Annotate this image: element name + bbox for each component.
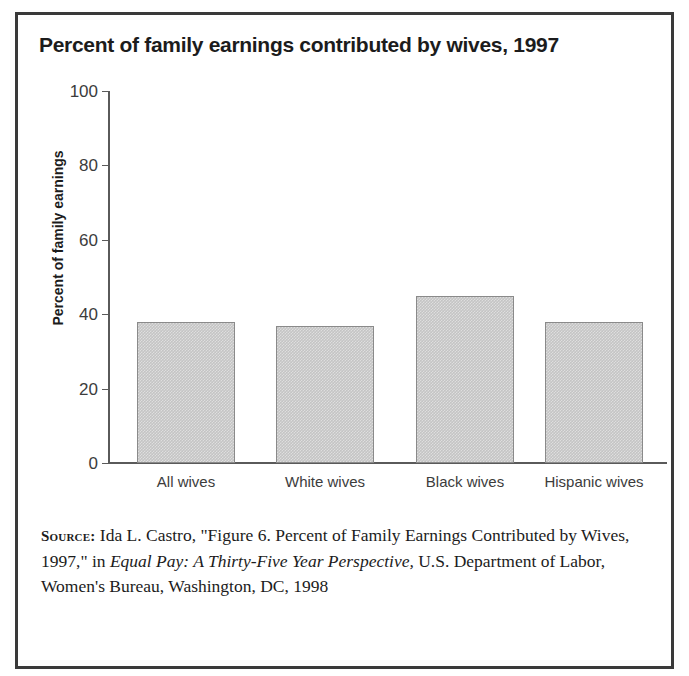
x-tick-label-all-wives: All wives — [126, 473, 246, 490]
y-tick-mark-20 — [102, 389, 108, 390]
bar-black-wives — [416, 296, 514, 463]
y-tick-label-20: 20 — [54, 381, 98, 398]
bar-white-wives — [276, 326, 374, 463]
x-tick-label-hispanic-wives: Hispanic wives — [529, 473, 659, 490]
y-tick-label-80: 80 — [54, 157, 98, 174]
x-tick-label-white-wives: White wives — [265, 473, 385, 490]
y-tick-label-100: 100 — [54, 83, 98, 100]
y-tick-mark-0 — [102, 463, 108, 464]
y-tick-mark-100 — [102, 91, 108, 92]
y-tick-label-60: 60 — [54, 232, 98, 249]
y-tick-mark-80 — [102, 165, 108, 166]
bar-hispanic-wives — [545, 322, 643, 463]
source-label: Source: — [41, 528, 95, 544]
y-tick-label-40: 40 — [54, 306, 98, 323]
x-tick-label-black-wives: Black wives — [405, 473, 525, 490]
y-axis-line — [108, 91, 110, 463]
y-tick-label-0: 0 — [54, 455, 98, 472]
figure-frame: Percent of family earnings contributed b… — [15, 12, 674, 669]
bar-all-wives — [137, 322, 235, 463]
y-tick-mark-40 — [102, 314, 108, 315]
source-note: Source: Ida L. Castro, "Figure 6. Percen… — [41, 523, 641, 599]
source-publication-title: Equal Pay: A Thirty-Five Year Perspectiv… — [110, 551, 414, 571]
bar-chart-plot-area: Percent of family earnings 100 80 60 40 … — [18, 15, 677, 505]
y-tick-mark-60 — [102, 240, 108, 241]
